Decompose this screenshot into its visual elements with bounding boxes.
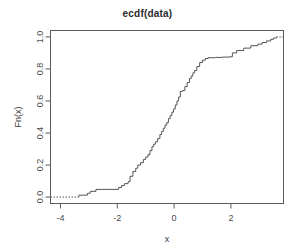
- chart-canvas: -4-2020.00.20.40.60.81.0 xFn(x): [0, 0, 295, 251]
- y-axis-tick-label: 0.6: [36, 95, 46, 108]
- ecdf-step-series: [51, 37, 284, 197]
- x-axis-tick-label: -2: [113, 213, 121, 223]
- y-axis-tick-label: 1.0: [36, 31, 46, 44]
- y-axis-title: Fn(x): [13, 107, 23, 128]
- y-axis-tick-label: 0.2: [36, 159, 46, 172]
- ecdf-step-line: [79, 37, 276, 197]
- y-axis-tick-label: 0.8: [36, 63, 46, 76]
- x-axis-tick-label: 2: [228, 213, 233, 223]
- x-axis-title: x: [165, 234, 170, 244]
- ecdf-plot-figure: ecdf(data) -4-2020.00.20.40.60.81.0 xFn(…: [0, 0, 295, 251]
- plot-frame: [51, 31, 284, 204]
- ticks-group: [46, 37, 231, 209]
- y-axis-tick-label: 0.4: [36, 127, 46, 140]
- x-axis-tick-label: -4: [56, 213, 64, 223]
- x-axis-tick-label: 0: [172, 213, 177, 223]
- tick-labels-group: -4-2020.00.20.40.60.81.0: [36, 31, 234, 223]
- y-axis-tick-label: 0.0: [36, 191, 46, 204]
- axes-group: [51, 31, 284, 204]
